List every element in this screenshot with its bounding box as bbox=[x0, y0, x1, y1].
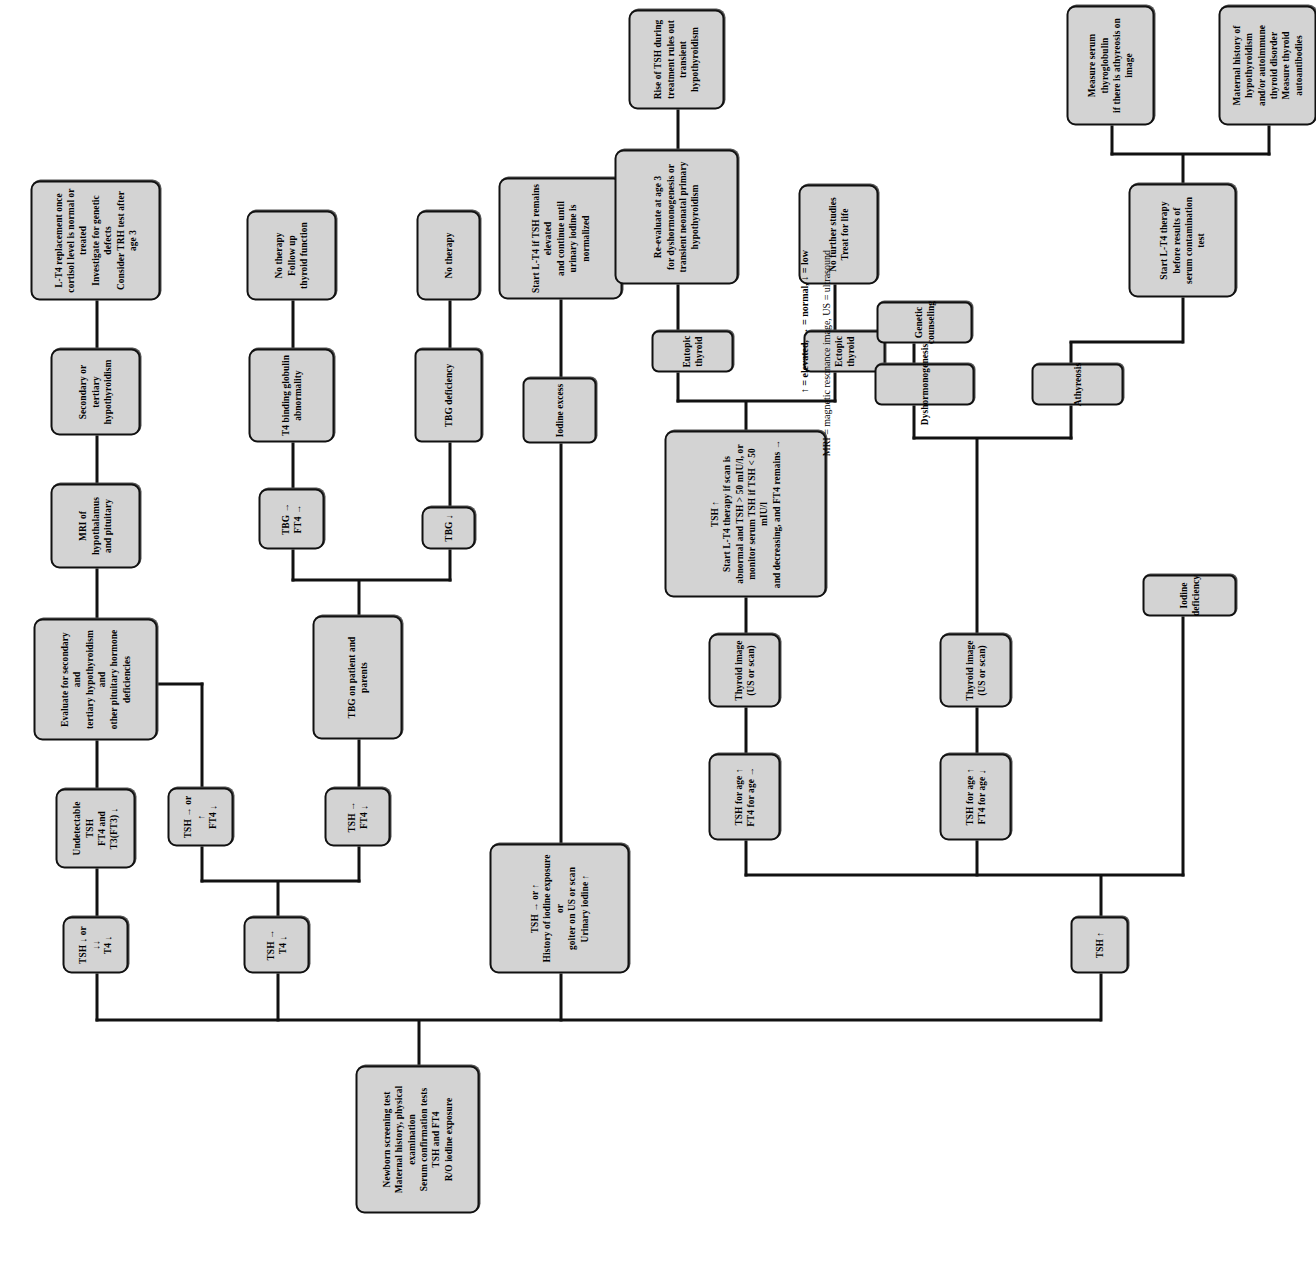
node-evaluate-secondary[interactable]: Evaluate for secondary andtertiary hypot… bbox=[33, 618, 157, 740]
edge-start-fan-top bbox=[1110, 125, 1113, 155]
edge-r2-fan-v bbox=[912, 436, 1072, 439]
node-rise-tsh[interactable]: Rise of TSH duringtreatment rules outtra… bbox=[628, 9, 724, 109]
node-t4-binding-globulin-label: T4 binding globulinabnormality bbox=[279, 354, 304, 435]
edge-tbg-fan-top bbox=[291, 549, 294, 581]
edge-tshhigh-out bbox=[1099, 874, 1102, 916]
edge-tbg-fan bbox=[357, 579, 360, 615]
edge-tbgnorm-t4binding bbox=[291, 442, 294, 488]
node-tsh-low-label: TSH ↓ or ↓↓T4 ↓ bbox=[76, 922, 113, 967]
edge-reeval-rise bbox=[676, 109, 679, 149]
node-tsh-high-label: TSH ↑ bbox=[1093, 931, 1105, 957]
edge-lower-to-tbg bbox=[357, 739, 360, 787]
node-rise-tsh-label: Rise of TSH duringtreatment rules outtra… bbox=[651, 15, 701, 103]
edge-tshhigh-row1 bbox=[744, 840, 747, 876]
edge-r1-c bbox=[744, 400, 747, 430]
node-thyroid-image-2-label: Thyroid image(US or scan) bbox=[963, 640, 988, 700]
node-tsh-high[interactable]: TSH ↑ bbox=[1070, 916, 1128, 973]
node-tsh-normal[interactable]: TSH →T4 ↓ bbox=[243, 916, 309, 973]
node-root[interactable]: Newborn screening testMaternal history, … bbox=[355, 1065, 479, 1213]
node-genetic-counseling[interactable]: Genetic counseling bbox=[876, 301, 972, 343]
node-root-label: Newborn screening testMaternal history, … bbox=[380, 1071, 454, 1207]
node-eutopic-thyroid[interactable]: Eutopic thyroid bbox=[651, 330, 733, 372]
node-mri-label: MRI of hypothalamusand pituitary bbox=[76, 489, 113, 562]
node-athyreosis[interactable]: Athyreosis bbox=[1031, 363, 1123, 405]
node-tsh-up-start-lt4[interactable]: TSH ↑Start L-T4 therapy if scan isabnorm… bbox=[664, 430, 826, 597]
edge-tshnorm-fan-v bbox=[200, 879, 360, 882]
edge-secondary-lt4 bbox=[95, 300, 98, 348]
node-tbg-normal-label: TBG →FT4 → bbox=[279, 502, 304, 534]
edge-tshhigh-row3 bbox=[1181, 616, 1184, 876]
edge-tshhigh-v bbox=[744, 873, 1184, 876]
node-ectopic-thyroid[interactable]: Ectopic thyroid bbox=[803, 330, 885, 372]
node-tbg-low[interactable]: TBG ↓ bbox=[421, 506, 475, 549]
node-start-lt4-before-label: Start L-T4 therapybefore results ofserum… bbox=[1157, 189, 1207, 291]
node-no-therapy-followup[interactable]: No therapyFollow upthyroid function bbox=[246, 210, 336, 300]
node-tsh-norm-ft4-low2[interactable]: TSH →FT4 ↓ bbox=[324, 787, 390, 846]
legend-line-1: ↑ = elevated, → = normal, ↓ = low bbox=[799, 250, 810, 393]
node-tsh-low[interactable]: TSH ↓ or ↓↓T4 ↓ bbox=[62, 916, 128, 973]
edge-spine-to-tsh-iodine bbox=[559, 973, 562, 1021]
edge-tbg-fan-bottom bbox=[448, 549, 451, 581]
node-ectopic-thyroid-label: Ectopic thyroid bbox=[832, 336, 857, 367]
node-no-therapy-followup-label: No therapyFollow upthyroid function bbox=[272, 222, 309, 289]
node-tsh-norm-ft4-low[interactable]: TSH → or ↑FT4 ↓ bbox=[167, 787, 233, 846]
edge-tshnorm-fan bbox=[276, 880, 279, 916]
edge-spine-to-tsh-high bbox=[1099, 973, 1102, 1021]
edge-mri-secondary bbox=[95, 435, 98, 483]
node-secondary-tertiary-label: Secondary or tertiaryhypothyroidism bbox=[76, 354, 113, 429]
node-measure-thyroglobulin[interactable]: Measure serum thyroglobulinif there is a… bbox=[1066, 5, 1154, 125]
node-tbg-normal[interactable]: TBG →FT4 → bbox=[258, 488, 324, 549]
node-start-lt4-before[interactable]: Start L-T4 therapybefore results ofserum… bbox=[1128, 183, 1236, 297]
node-dyshormonogenesis[interactable]: Dyshormonogenesis bbox=[874, 363, 974, 405]
node-lt4-replacement[interactable]: L-T4 replacement oncecortisol level is n… bbox=[30, 180, 160, 300]
node-thyroid-image-1[interactable]: Thyroid image(US or scan) bbox=[708, 633, 780, 707]
edge-tbg-fan-v bbox=[291, 578, 451, 581]
edge-iodine-excess bbox=[559, 443, 562, 843]
edge-r2-fan-bottom bbox=[1069, 405, 1072, 439]
node-tbg-deficiency-label: TBG deficiency bbox=[442, 363, 454, 427]
edge-fan-top bbox=[200, 846, 203, 882]
node-iodine-excess-label: Iodine excess bbox=[553, 383, 565, 437]
edge-excess-startlt4 bbox=[559, 299, 562, 377]
node-undetectable-tsh[interactable]: Undetectable TSHFT4 and T3(FT3) ↓ bbox=[55, 788, 135, 868]
node-tsh-iodine[interactable]: TSH → or ↑History of iodine exposure org… bbox=[489, 843, 629, 973]
node-tbg-patient-parents-label: TBG on patient and parents bbox=[345, 621, 370, 733]
legend-line-1-text: ↑ = elevated, → = normal, ↓ = low bbox=[799, 250, 810, 393]
node-thyroid-image-1-label: Thyroid image(US or scan) bbox=[732, 640, 757, 700]
node-measure-thyroglobulin-label: Measure serum thyroglobulinif there is a… bbox=[1085, 11, 1135, 119]
node-thyroid-image-2[interactable]: Thyroid image(US or scan) bbox=[939, 633, 1011, 707]
edge-r2-b bbox=[975, 437, 978, 633]
edge-t4binding-notherapy-fu bbox=[291, 300, 294, 348]
node-tsh-high-ft4-low[interactable]: TSH for age ↑FT4 for age ↓ bbox=[939, 753, 1011, 840]
edge-r2-fan-top bbox=[912, 405, 915, 439]
node-maternal-history-label: Maternal history of hypothyroidismand/or… bbox=[1230, 11, 1304, 119]
node-iodine-excess[interactable]: Iodine excess bbox=[522, 377, 596, 443]
node-tsh-high-ft4-norm[interactable]: TSH for age ↑FT4 for age → bbox=[708, 753, 780, 840]
edge-tbglow-deficiency bbox=[448, 442, 451, 506]
node-maternal-history[interactable]: Maternal history of hypothyroidismand/or… bbox=[1218, 5, 1316, 125]
edge-r1-fan-bottom bbox=[833, 372, 836, 402]
node-eutopic-thyroid-label: Eutopic thyroid bbox=[680, 335, 705, 367]
node-start-lt4-iodine-label: Start L-T4 if TSH remains elevatedand co… bbox=[529, 183, 591, 293]
edge-ectopic-nofurther bbox=[833, 284, 836, 330]
node-tbg-patient-parents[interactable]: TBG on patient and parents bbox=[312, 615, 402, 739]
node-secondary-tertiary[interactable]: Secondary or tertiaryhypothyroidism bbox=[50, 348, 140, 435]
edge-upper-to-evaluate-v bbox=[155, 682, 203, 685]
node-t4-binding-globulin[interactable]: T4 binding globulinabnormality bbox=[248, 348, 334, 442]
node-mri[interactable]: MRI of hypothalamusand pituitary bbox=[50, 483, 140, 568]
legend-line-2-text: MRI = magnetic resonance image, US = ult… bbox=[821, 250, 832, 456]
node-athyreosis-label: Athyreosis bbox=[1071, 362, 1083, 406]
node-reevaluate-age3[interactable]: Re-evaluate at age 3for dyshormonogenesi… bbox=[614, 149, 738, 284]
edge-root-out bbox=[417, 1019, 420, 1065]
edge-deficiency-notherapy bbox=[448, 300, 451, 348]
node-lt4-replacement-label: L-T4 replacement oncecortisol level is n… bbox=[52, 186, 139, 294]
node-iodine-deficiency[interactable]: Iodine deficiency bbox=[1142, 574, 1236, 616]
node-evaluate-secondary-label: Evaluate for secondary andtertiary hypot… bbox=[58, 624, 132, 734]
edge-r1-a bbox=[744, 707, 747, 753]
node-tsh-high-ft4-norm-label: TSH for age ↑FT4 for age → bbox=[732, 767, 757, 827]
node-no-therapy[interactable]: No therapy bbox=[416, 210, 480, 300]
node-genetic-counseling-label: Genetic counseling bbox=[912, 300, 937, 343]
node-start-lt4-iodine[interactable]: Start L-T4 if TSH remains elevatedand co… bbox=[498, 177, 622, 299]
node-tbg-deficiency[interactable]: TBG deficiency bbox=[414, 348, 482, 442]
node-undetectable-tsh-label: Undetectable TSHFT4 and T3(FT3) ↓ bbox=[70, 794, 120, 862]
